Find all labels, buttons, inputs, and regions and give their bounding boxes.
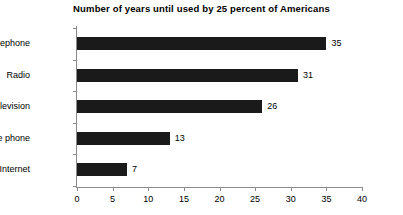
x-tick-label: 10 <box>133 193 163 205</box>
x-tick <box>220 187 221 191</box>
x-tick-label: 30 <box>276 193 306 205</box>
x-tick-label: 5 <box>98 193 128 205</box>
x-tick-label: 15 <box>169 193 199 205</box>
plot-area: Telephone 35 Radio 31 Television 26 Mobi… <box>77 28 362 186</box>
bar[interactable] <box>77 163 127 176</box>
x-tick <box>291 187 292 191</box>
x-tick-label: 40 <box>347 193 377 205</box>
bar-row: Mobile phone 13 <box>77 123 362 155</box>
x-tick-label: 35 <box>311 193 341 205</box>
bar-value-label: 26 <box>267 99 277 113</box>
bar-chart: Number of years until used by 25 percent… <box>0 0 403 215</box>
category-label: Television <box>0 99 30 113</box>
y-tick <box>73 123 77 124</box>
bar-row: Telephone 35 <box>77 28 362 60</box>
bar[interactable] <box>77 69 298 82</box>
x-tick <box>184 187 185 191</box>
category-label: Mobile phone <box>0 131 30 145</box>
bar-value-label: 31 <box>303 68 313 82</box>
y-tick <box>73 91 77 92</box>
bar[interactable] <box>77 132 170 145</box>
category-label: Internet <box>0 162 30 176</box>
y-tick <box>73 60 77 61</box>
chart-title: Number of years until used by 25 percent… <box>0 3 403 14</box>
bar-row: Radio 31 <box>77 60 362 92</box>
x-tick-label: 0 <box>62 193 92 205</box>
x-tick-label: 20 <box>205 193 235 205</box>
x-tick-label: 25 <box>240 193 270 205</box>
category-label: Radio <box>6 68 30 82</box>
y-tick <box>73 28 77 29</box>
bar[interactable] <box>77 100 262 113</box>
bar[interactable] <box>77 37 326 50</box>
x-tick <box>113 187 114 191</box>
x-tick <box>326 187 327 191</box>
y-tick <box>73 154 77 155</box>
bar-value-label: 7 <box>132 162 137 176</box>
x-tick <box>255 187 256 191</box>
bar-row: Internet 7 <box>77 154 362 186</box>
bar-row: Television 26 <box>77 91 362 123</box>
bar-value-label: 13 <box>175 131 185 145</box>
x-tick <box>362 187 363 191</box>
bar-value-label: 35 <box>331 36 341 50</box>
category-label: Telephone <box>0 36 30 50</box>
x-tick <box>77 187 78 191</box>
x-tick <box>148 187 149 191</box>
